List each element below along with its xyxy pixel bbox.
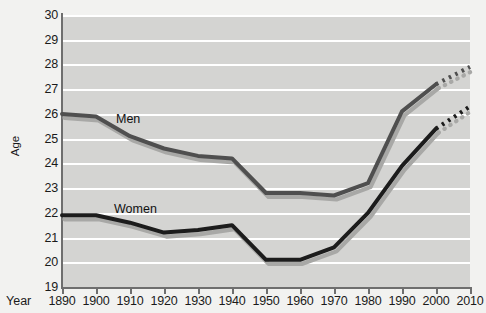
series-shadow-men: [65, 88, 439, 199]
series-lines-svg: [0, 0, 486, 313]
series-label-men: Men: [116, 112, 140, 126]
series-projection-shadow-women: [439, 110, 473, 132]
series-projection-women: [436, 106, 470, 128]
chart-container: 192021222324252627282930 Age Year 189019…: [0, 0, 486, 313]
series-label-women: Women: [114, 202, 157, 216]
series-line-women: [62, 129, 436, 260]
